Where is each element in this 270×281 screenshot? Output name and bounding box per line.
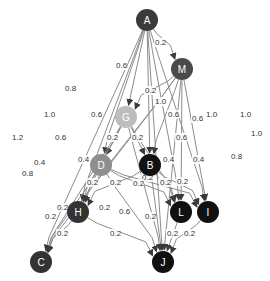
- edge-weight-label: 0.6: [168, 110, 180, 119]
- node-label: M: [178, 64, 186, 75]
- edge-weight-label: 0.6: [192, 114, 204, 123]
- edge-D-L: [110, 171, 170, 206]
- edge-weight-label: 0.2: [110, 178, 122, 187]
- edge-weight-label: 1.0: [240, 110, 252, 119]
- edge-weight-label: 1.0: [44, 110, 56, 119]
- node-L: L: [170, 201, 192, 223]
- edge-weight-label: 0.2: [167, 229, 179, 238]
- edge-weight-label: 0.2: [57, 229, 69, 238]
- node-label: B: [147, 160, 154, 171]
- edge-weight-label: 0.8: [22, 169, 34, 178]
- node-I: I: [197, 201, 219, 223]
- edge-weight-label: 0.2: [145, 212, 157, 221]
- edge-weight-label: 0.2: [107, 133, 119, 142]
- graph-canvas: 0.20.60.80.21.01.00.60.60.61.01.01.20.60…: [0, 0, 270, 281]
- node-label: J: [161, 257, 166, 268]
- edge-weight-label: 0.4: [193, 155, 205, 164]
- node-G: G: [115, 106, 137, 128]
- node-label: A: [144, 15, 151, 26]
- node-H: H: [67, 201, 89, 223]
- node-M: M: [171, 58, 193, 80]
- node-label: C: [37, 257, 44, 268]
- edge-weight-label: 1.0: [206, 110, 218, 119]
- edge-weight-label: 0.2: [133, 179, 145, 188]
- edge-weight-label: 1.0: [251, 129, 263, 138]
- node-label: H: [74, 207, 81, 218]
- edge-weight-label: 0.2: [155, 38, 167, 47]
- edge-weight-label: 1.0: [155, 97, 167, 106]
- edge-weight-label: 0.4: [78, 155, 90, 164]
- edge-weight-label: 0.2: [45, 212, 57, 221]
- edge-weight-label: 0.2: [132, 133, 144, 142]
- edge-weight-label: 0.6: [176, 133, 188, 142]
- node-D: D: [90, 154, 112, 176]
- edge-weight-label: 0.2: [177, 177, 189, 186]
- node-label: I: [207, 207, 210, 218]
- edge-weight-label: 0.2: [57, 203, 69, 212]
- edge-M-J: [164, 80, 181, 250]
- edge-weight-label: 0.8: [65, 84, 77, 93]
- edge-weight-label: 0.4: [34, 158, 46, 167]
- edge-weight-label: 1.2: [12, 133, 24, 142]
- edge-weight-label: 0.2: [99, 203, 111, 212]
- edge-weight-label: 0.2: [160, 178, 172, 187]
- edge-weight-label: 0.8: [231, 152, 243, 161]
- edge-weight-label: 0.2: [145, 86, 157, 95]
- node-label: D: [97, 160, 104, 171]
- node-label: G: [122, 112, 130, 123]
- edge-weight-label: 0.6: [91, 110, 103, 119]
- directed-graph: 0.20.60.80.21.01.00.60.60.61.01.01.20.60…: [0, 0, 270, 281]
- edge-weight-label: 0.6: [116, 61, 128, 70]
- node-B: B: [139, 154, 161, 176]
- node-C: C: [30, 251, 52, 273]
- node-A: A: [136, 9, 158, 31]
- edge-weight-label: 0.4: [163, 155, 175, 164]
- edge-weight-label: 0.6: [119, 207, 131, 216]
- edge-weight-label: 0.2: [110, 229, 122, 238]
- edge-weight-label: 0.2: [87, 178, 99, 187]
- edge-weight-label: 0.6: [55, 133, 67, 142]
- node-J: J: [152, 251, 174, 273]
- node-label: L: [178, 207, 184, 218]
- edge-weight-label: 0.2: [184, 229, 196, 238]
